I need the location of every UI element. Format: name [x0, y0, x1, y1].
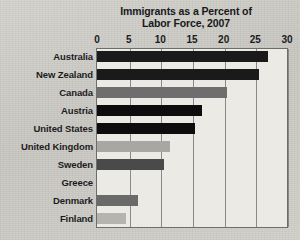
chart-title-line-1: Immigrants as a Percent of	[78, 6, 294, 18]
bar-australia	[97, 51, 268, 62]
bar-row: United Kingdom	[0, 138, 300, 156]
category-label-australia: Australia	[53, 51, 93, 62]
category-label-new-zealand: New Zealand	[36, 69, 93, 80]
bar-row: Austria	[0, 102, 300, 120]
category-label-greece: Greece	[61, 177, 93, 188]
chart-title: Immigrants as a Percent of Labor Force, …	[78, 6, 294, 29]
bar-row: New Zealand	[0, 66, 300, 84]
bar-denmark	[97, 195, 138, 206]
category-label-finland: Finland	[60, 213, 93, 224]
bar-row: Greece	[0, 174, 300, 192]
category-label-united-states: United States	[34, 123, 93, 134]
bar-row: Finland	[0, 210, 300, 228]
bar-row: Denmark	[0, 192, 300, 210]
bar-row: United States	[0, 120, 300, 138]
x-tick-label-20: 20	[218, 34, 229, 45]
bar-row: Sweden	[0, 156, 300, 174]
x-tick-label-0: 0	[94, 34, 100, 45]
bar-row: Canada	[0, 84, 300, 102]
category-label-united-kingdom: United Kingdom	[21, 141, 93, 152]
chart-title-line-2: Labor Force, 2007	[78, 18, 294, 30]
bar-sweden	[97, 159, 164, 170]
x-tick-label-5: 5	[126, 34, 132, 45]
bar-rows: AustraliaNew ZealandCanadaAustriaUnited …	[0, 48, 300, 228]
x-tick-label-25: 25	[250, 34, 261, 45]
bar-united-states	[97, 123, 195, 134]
bar-united-kingdom	[97, 141, 170, 152]
bar-new-zealand	[97, 69, 259, 80]
x-tick-label-10: 10	[155, 34, 166, 45]
bar-canada	[97, 87, 227, 98]
x-tick-label-15: 15	[186, 34, 197, 45]
x-tick-label-30: 30	[281, 34, 292, 45]
bar-row: Australia	[0, 48, 300, 66]
category-label-sweden: Sweden	[58, 159, 93, 170]
bar-finland	[97, 213, 126, 224]
category-label-denmark: Denmark	[53, 195, 93, 206]
bar-chart-figure: Immigrants as a Percent of Labor Force, …	[0, 0, 300, 240]
category-label-austria: Austria	[61, 105, 93, 116]
bar-austria	[97, 105, 202, 116]
category-label-canada: Canada	[59, 87, 93, 98]
x-axis-tick-labels: 051015202530	[0, 34, 300, 48]
